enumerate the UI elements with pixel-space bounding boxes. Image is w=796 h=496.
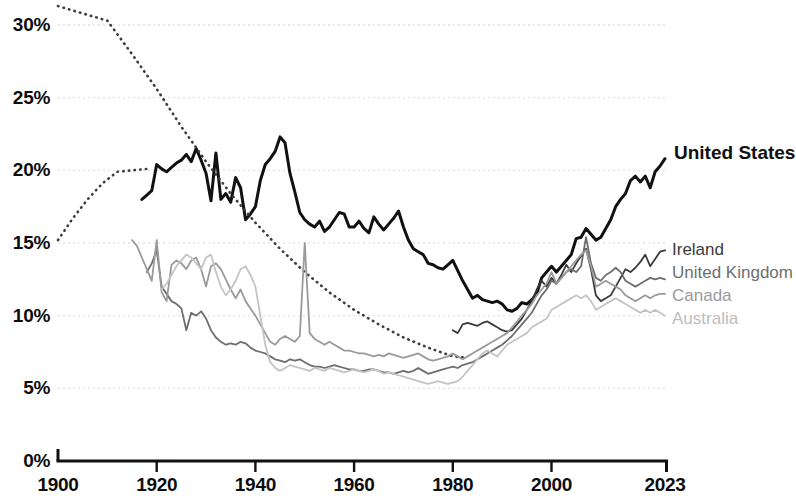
y-tick-label: 25% (0, 87, 50, 109)
axes-group (57, 449, 669, 472)
series-group (58, 6, 665, 384)
legend-label-canada[interactable]: Canada (672, 287, 732, 304)
x-tick-marks-group (157, 461, 552, 472)
series-line (58, 6, 468, 358)
series-line (453, 249, 665, 333)
x-tick-label: 1960 (309, 474, 399, 496)
x-tick-label: 2023 (620, 474, 710, 496)
x-tick-label: 1920 (112, 474, 202, 496)
y-tick-label: 30% (0, 14, 50, 36)
legend-label-united-kingdom[interactable]: United Kingdom (672, 264, 793, 281)
x-tick-label: 1940 (210, 474, 300, 496)
legend-label-ireland[interactable]: Ireland (672, 241, 724, 258)
series-line (162, 255, 665, 384)
y-tick-label: 20% (0, 159, 50, 181)
y-tick-label: 0% (0, 450, 50, 472)
x-tick-label: 1900 (13, 474, 103, 496)
y-tick-label: 10% (0, 305, 50, 327)
legend-label-australia[interactable]: Australia (672, 310, 738, 327)
series-line (58, 169, 147, 240)
y-tick-label: 5% (0, 377, 50, 399)
legend-label-united-states[interactable]: United States (674, 143, 795, 162)
y-tick-label: 15% (0, 232, 50, 254)
x-tick-label: 2000 (506, 474, 596, 496)
x-tick-label: 1980 (408, 474, 498, 496)
chart-container: 0%5%10%15%20%25%30% 19001920194019601980… (0, 0, 796, 496)
gridlines-group (58, 25, 665, 388)
